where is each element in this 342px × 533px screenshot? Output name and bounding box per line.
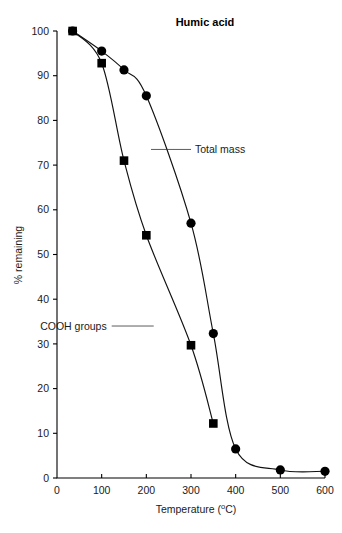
x-tick-label: 300 [182, 484, 200, 496]
data-point-marker [68, 27, 77, 36]
x-axis-title-tail: C) [225, 503, 236, 515]
data-point-marker [187, 341, 196, 350]
y-axis-title: % remaining [12, 226, 24, 285]
y-tick-label: 70 [37, 159, 49, 171]
y-tick-label: 100 [31, 25, 49, 37]
data-point-marker [119, 65, 128, 74]
data-point-marker [186, 219, 195, 228]
x-tick-label: 600 [316, 484, 334, 496]
data-point-marker [209, 329, 218, 338]
chart-background [0, 0, 342, 533]
y-tick-label: 20 [37, 382, 49, 394]
data-point-marker [97, 59, 106, 68]
data-point-marker [142, 91, 151, 100]
data-point-marker [120, 156, 129, 165]
x-axis-title-main: Temperature ( [156, 503, 222, 515]
x-tick-label: 500 [272, 484, 290, 496]
y-tick-label: 30 [37, 338, 49, 350]
y-tick-label: 40 [37, 293, 49, 305]
annotation-total-mass: Total mass [195, 143, 245, 155]
data-point-marker [97, 47, 106, 56]
humic-acid-decay-chart: Humic acid 0102030405060708090100 010020… [0, 0, 342, 533]
data-point-marker [320, 467, 329, 476]
x-tick-label: 400 [227, 484, 245, 496]
x-tick-label: 100 [93, 484, 111, 496]
data-point-marker [276, 465, 285, 474]
data-point-marker [209, 419, 218, 428]
annotation-cooh-groups: COOH groups [40, 320, 107, 332]
y-tick-label: 90 [37, 69, 49, 81]
chart-figure: Humic acid 0102030405060708090100 010020… [0, 0, 342, 533]
chart-title: Humic acid [176, 16, 235, 28]
y-tick-label: 80 [37, 114, 49, 126]
x-tick-label: 200 [138, 484, 156, 496]
y-tick-label: 60 [37, 203, 49, 215]
y-tick-label: 10 [37, 427, 49, 439]
x-tick-label: 0 [54, 484, 60, 496]
data-point-marker [231, 444, 240, 453]
y-tick-label: 50 [37, 248, 49, 260]
y-tick-label: 0 [43, 472, 49, 484]
data-point-marker [142, 231, 151, 240]
